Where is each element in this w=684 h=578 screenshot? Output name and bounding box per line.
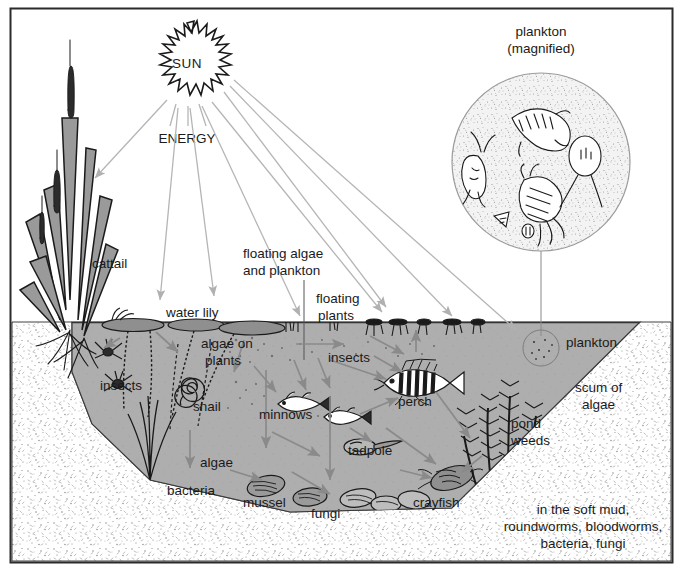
scum-of-algae-label-2: algae: [582, 397, 615, 412]
insects-left-label: insects: [100, 378, 142, 393]
soft-mud-label-2: roundworms, bloodworms,: [504, 519, 662, 534]
algae-on-plants-label-2: plants: [205, 353, 241, 368]
tadpole-label: tadpole: [348, 443, 392, 458]
floating-plants-label-1: floating: [316, 291, 360, 306]
soft-mud-label-3: bacteria, fungi: [541, 536, 626, 551]
water-lily-label: water lily: [165, 305, 219, 320]
plankton-magnified-label-2: (magnified): [507, 41, 575, 56]
floating-algae-label-2: and plankton: [243, 263, 320, 278]
floating-algae-label-1: floating algae: [243, 246, 323, 261]
sun-label: SUN: [172, 56, 202, 71]
cattail-label: cattail: [92, 256, 127, 271]
plankton-magnified-label-1: plankton: [515, 24, 566, 39]
snail-label: snail: [193, 399, 221, 414]
diagram-canvas: SUN ENERGY plankton (magnified): [0, 0, 684, 578]
algae-on-plants-label-1: algae on: [201, 336, 253, 351]
algae-label: algae: [200, 455, 233, 470]
minnows-label: minnows: [259, 407, 313, 422]
insects-mid-label: insects: [328, 350, 370, 365]
fungi-label: fungi: [311, 506, 340, 521]
pond-food-web-diagram: SUN ENERGY plankton (magnified): [0, 0, 684, 578]
mussel-label: mussel: [243, 495, 286, 510]
energy-label: ENERGY: [158, 131, 215, 146]
pond-weeds-label-2: weeds: [510, 433, 550, 448]
scum-of-algae-label-1: scum of: [575, 380, 623, 395]
bacteria-label: bacteria: [167, 483, 216, 498]
crayfish-label: crayfish: [413, 495, 460, 510]
pond-weeds-label-1: pond: [511, 416, 541, 431]
micro-organism-drawing: [522, 224, 534, 238]
soft-mud-label-1: in the soft mud,: [537, 502, 629, 517]
floating-plants-label-2: plants: [318, 308, 354, 323]
perch-label: perch: [398, 394, 432, 409]
plankton-label: plankton: [566, 335, 617, 350]
